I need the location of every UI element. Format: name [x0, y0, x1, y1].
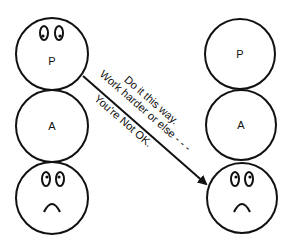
left-child-ego-circle — [16, 162, 88, 234]
left-parent-ego-circle: P — [16, 18, 88, 90]
left-adult-ego-circle: A — [16, 90, 88, 162]
sad-face-icon — [231, 172, 253, 212]
right-adult-label: A — [237, 119, 245, 131]
right-person: P A — [205, 19, 277, 233]
arrow-messages: Do it this way. Work harder or else - - … — [83, 59, 201, 170]
right-adult-ego-circle: A — [206, 90, 276, 160]
eyes-icon — [40, 26, 63, 40]
right-parent-label: P — [236, 48, 243, 60]
left-parent-label: P — [48, 55, 55, 67]
transaction-diagram: P A P A — [0, 0, 295, 241]
left-person: P A — [16, 18, 88, 234]
right-child-ego-circle — [207, 163, 277, 233]
right-parent-ego-circle: P — [205, 19, 275, 89]
left-adult-label: A — [48, 120, 56, 132]
sad-face-icon — [42, 172, 64, 212]
